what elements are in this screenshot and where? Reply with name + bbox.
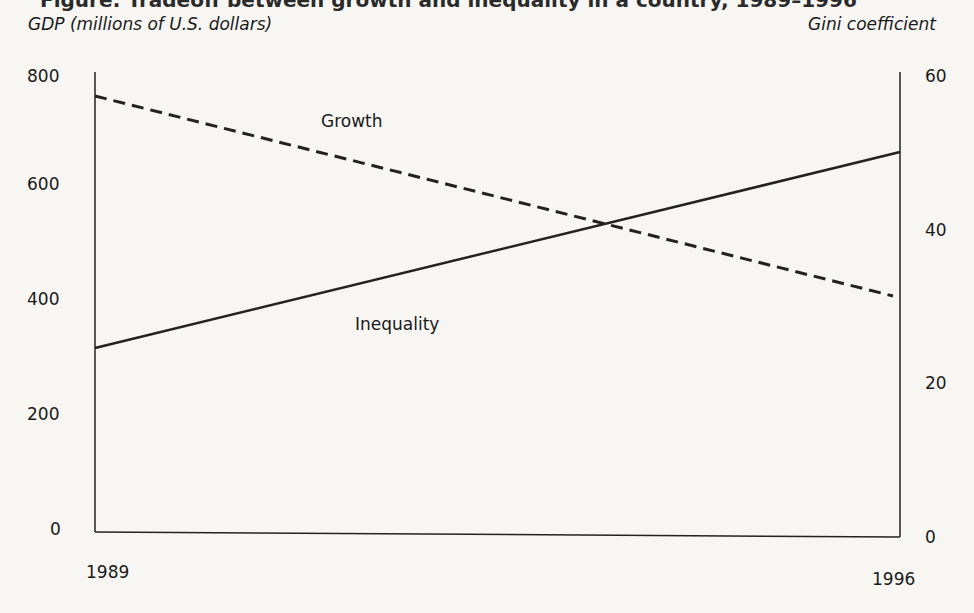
x-axis-line (95, 532, 900, 537)
growth-line (95, 96, 893, 296)
chart-plot (0, 0, 974, 613)
inequality-line (95, 152, 900, 348)
